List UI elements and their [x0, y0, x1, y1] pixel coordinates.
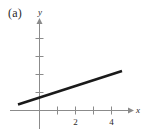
x-tick-label-4: 4: [109, 117, 114, 127]
figure-panel-a: (a) 2 4 x y: [0, 0, 143, 130]
x-axis-label: x: [135, 105, 140, 115]
plot-line-linear: [18, 71, 122, 105]
y-axis-arrow-icon: [37, 18, 43, 24]
y-axis-label: y: [37, 7, 42, 17]
graph-canvas: 2 4 x y: [0, 0, 143, 130]
x-axis-arrow-icon: [128, 108, 134, 114]
x-tick-label-2: 2: [73, 117, 78, 127]
